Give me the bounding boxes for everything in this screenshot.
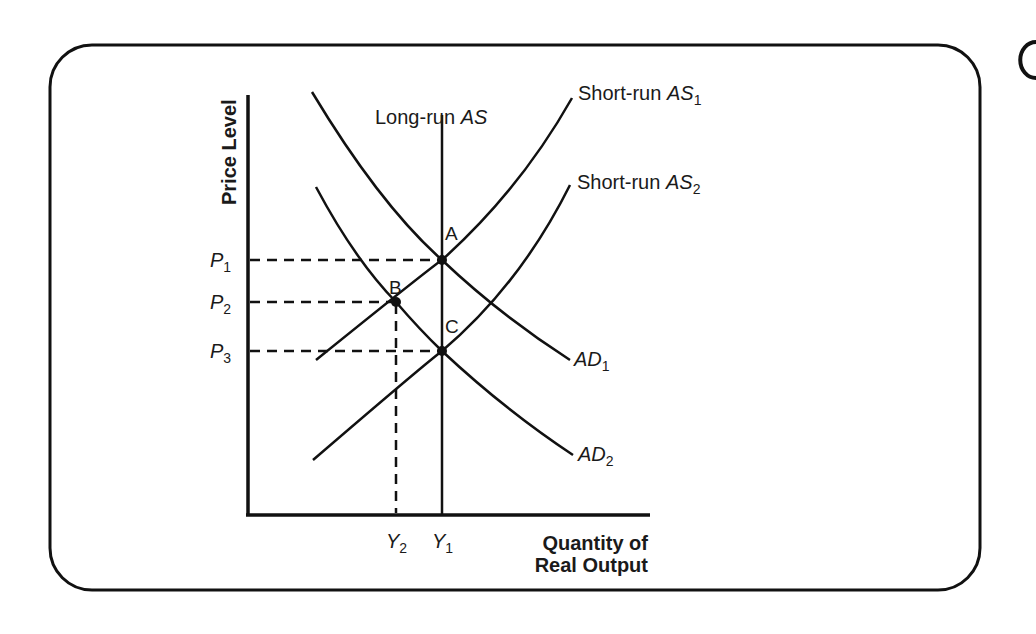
p3-label: P3 (210, 340, 231, 366)
short-run-as1-label: Short-run AS1 (578, 82, 702, 108)
ad2-label: AD2 (577, 443, 614, 469)
y-axis-label: Price Level (218, 99, 240, 205)
point-a-marker (437, 255, 447, 265)
point-b-label: B (389, 277, 402, 298)
short-run-as1-curve (316, 98, 572, 360)
point-b-marker (391, 297, 401, 307)
diagram-frame (50, 45, 980, 590)
y2-label: Y2 (386, 530, 407, 556)
point-a-label: A (445, 223, 458, 244)
p1-label: P1 (210, 249, 231, 275)
long-run-as-label: Long-run AS (375, 106, 488, 128)
edge-fragment (1020, 42, 1036, 78)
y1-label: Y1 (432, 530, 453, 556)
point-c-label: C (445, 316, 459, 337)
x-axis-label-line2: Real Output (535, 554, 649, 576)
ad-as-diagram: A B C Price Level Quantity of Real Outpu… (0, 0, 1036, 634)
p2-label: P2 (210, 291, 231, 317)
point-c-marker (437, 346, 447, 356)
short-run-as2-label: Short-run AS2 (577, 171, 701, 197)
ad1-label: AD1 (573, 348, 610, 374)
x-axis-label-line1: Quantity of (542, 532, 648, 554)
